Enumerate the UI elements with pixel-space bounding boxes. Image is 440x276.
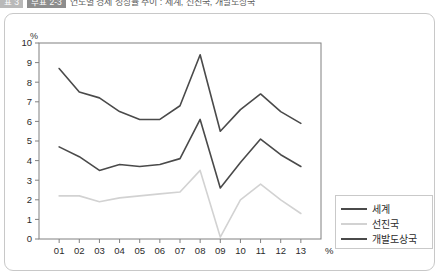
- legend-line-swatch: [341, 208, 367, 210]
- figure-card: % 012345678910 0102030405060708091011121…: [4, 13, 435, 271]
- series-line-개발도상국: [59, 55, 301, 131]
- figure-title-row: 표 3 부표 2-3 연도별 경제 성장률 추이 : 세계, 선진국, 개발도상…: [0, 0, 255, 9]
- y-tick-label: 6: [27, 116, 32, 127]
- figure-badge-left: 표 3: [0, 0, 23, 8]
- y-tick-label: 1: [27, 214, 32, 225]
- x-tick-label: 09: [215, 245, 226, 256]
- y-tick-label: 9: [27, 57, 32, 68]
- legend-item: 개발도상국: [341, 231, 432, 246]
- legend-line-swatch: [341, 238, 367, 240]
- legend-item-label: 선진국: [372, 216, 399, 231]
- series-line-선진국: [59, 170, 301, 237]
- x-axis-unit-text: %: [325, 245, 334, 256]
- plot-frame: [39, 43, 321, 239]
- x-tick-label: 06: [155, 245, 166, 256]
- x-axis-ticks: [59, 239, 301, 243]
- series-line-세계: [59, 119, 301, 188]
- y-tick-label: 4: [27, 155, 32, 166]
- chart-axes: [39, 43, 321, 239]
- y-tick-label: 8: [27, 77, 32, 88]
- x-axis-unit-label: %: [325, 245, 334, 256]
- y-tick-label: 5: [27, 135, 32, 146]
- legend-line-swatch: [341, 223, 367, 225]
- y-tick-label: 0: [27, 233, 32, 244]
- x-tick-label: 04: [114, 245, 125, 256]
- x-axis-tick-labels: 01020304050607080910111213: [54, 245, 306, 256]
- x-tick-label: 01: [54, 245, 65, 256]
- figure-title-strip: 표 3 부표 2-3 연도별 경제 성장률 추이 : 세계, 선진국, 개발도상…: [0, 0, 440, 11]
- x-tick-label: 07: [175, 245, 186, 256]
- x-tick-label: 02: [74, 245, 85, 256]
- legend-item: 선진국: [341, 216, 432, 231]
- x-tick-label: 12: [275, 245, 286, 256]
- legend-item-label: 세계: [372, 201, 390, 216]
- x-tick-label: 11: [256, 245, 266, 256]
- x-tick-label: 03: [94, 245, 105, 256]
- chart-legend: 세계 선진국 개발도상국: [335, 195, 433, 249]
- y-tick-label: 2: [27, 194, 32, 205]
- chart-series-layer: [59, 55, 301, 237]
- y-tick-label: 7: [27, 96, 32, 107]
- y-axis-ticks: [35, 43, 39, 239]
- legend-item-label: 개발도상국: [372, 231, 417, 246]
- legend-item: 세계: [341, 201, 432, 216]
- y-axis-tick-labels: 012345678910: [21, 37, 32, 244]
- y-tick-label: 3: [27, 175, 32, 186]
- figure-title-text: 연도별 경제 성장률 추이 : 세계, 선진국, 개발도상국: [70, 0, 255, 8]
- x-tick-label: 08: [195, 245, 206, 256]
- figure-badge-right: 부표 2-3: [27, 0, 66, 8]
- y-tick-label: 10: [21, 37, 32, 48]
- x-tick-label: 13: [296, 245, 307, 256]
- x-tick-label: 10: [235, 245, 246, 256]
- x-tick-label: 05: [134, 245, 145, 256]
